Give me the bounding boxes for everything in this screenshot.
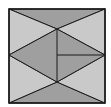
geometric-diagram xyxy=(0,0,111,107)
